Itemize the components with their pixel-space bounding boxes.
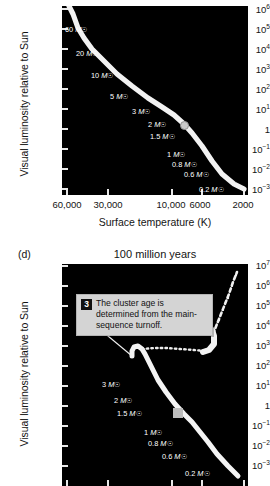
- x-tick-label: 6000: [180, 199, 220, 210]
- y-axis-title-top: Visual luminosity relative to Sun: [18, 19, 30, 189]
- x-axis-title-top: Surface temperature (K): [62, 216, 248, 228]
- panel-letter: (d): [18, 248, 31, 260]
- callout-text: The cluster age is determined from the m…: [96, 298, 207, 331]
- main-sequence-curve: [62, 6, 248, 195]
- x-tick-label: 2000: [223, 199, 263, 210]
- hr-diagram-panel-bottom: (d) 100 million years Visual luminosity …: [0, 243, 270, 486]
- callout-box: 3 The cluster age is determined from the…: [76, 294, 213, 336]
- mass-label-5: 5 M☉: [110, 92, 128, 101]
- mass-label-2: 2 M☉: [148, 120, 166, 129]
- mass-label-3: 3 M☉: [132, 107, 150, 116]
- mass-label-10: 10 M☉: [91, 71, 113, 80]
- x-tick-label: 30,000: [83, 199, 133, 210]
- hr-diagram-panel-top: Visual luminosity relative to Sun 106 10…: [0, 0, 270, 243]
- callout-badge: 3: [81, 299, 92, 310]
- mass-label-20: 20 M☉: [76, 49, 98, 58]
- mass-label-0p8: 0.8 M☉: [172, 160, 197, 169]
- mass-label-0p2: 0.2 M☉: [199, 185, 224, 194]
- y-axis-title-bottom: Visual luminosity relative to Sun: [18, 289, 30, 459]
- panel-title: 100 million years: [62, 248, 248, 260]
- mass-label-0p6: 0.6 M☉: [184, 170, 209, 179]
- mass-label-1: 1 M☉: [167, 150, 185, 159]
- mass-label-1p5: 1.5 M☉: [150, 132, 175, 141]
- plot-area-top: 60 M☉ 20 M☉ 10 M☉ 5 M☉ 3 M☉ 2 M☉ 1.5 M☉ …: [62, 6, 248, 195]
- mass-label-60: 60 M☉: [65, 25, 87, 34]
- sun-marker-icon: [180, 121, 189, 130]
